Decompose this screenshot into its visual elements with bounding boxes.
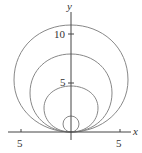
polar-curves-figure: y x 10 5 5 5	[0, 0, 142, 153]
x-axis-label: x	[132, 125, 138, 137]
y-tick-label-10: 10	[54, 28, 66, 40]
axes	[8, 12, 131, 140]
y-axis-label: y	[66, 0, 72, 12]
y-tick-label-5: 5	[60, 76, 66, 88]
plot-area: y x 10 5 5 5	[0, 0, 142, 153]
x-tick-label-right: 5	[116, 137, 122, 149]
x-tick-label-left: 5	[17, 137, 23, 149]
